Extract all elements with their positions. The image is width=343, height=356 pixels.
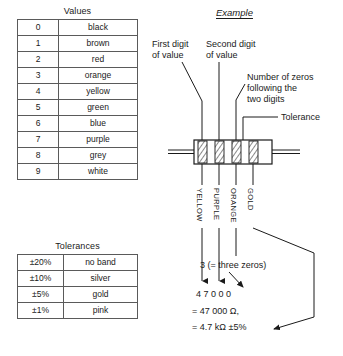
resistor-band-4	[249, 141, 258, 163]
leader-first-digit	[182, 62, 202, 140]
arrow-zeros-to-digits	[229, 272, 243, 287]
resistor-lead-left	[168, 150, 194, 154]
leader-gold-to-tolerance	[253, 228, 314, 329]
resistor-lead-right	[271, 150, 300, 154]
diagram-overlay	[0, 0, 343, 356]
resistor-colour-code-figure: Values 0 black 1 brown 2 red 3 orange	[0, 0, 343, 356]
resistor-band-2	[215, 141, 224, 163]
leader-number-of-zeros	[236, 84, 245, 140]
resistor-band-1	[198, 141, 207, 163]
resistor-band-3	[232, 141, 241, 163]
leader-tolerance	[243, 117, 278, 140]
